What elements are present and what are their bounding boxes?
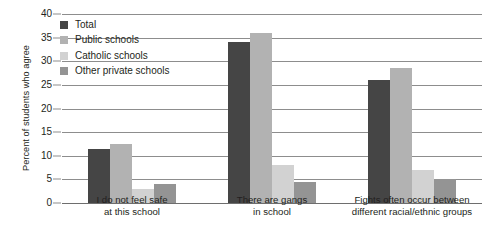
legend-swatch-icon — [60, 36, 68, 44]
y-tick-label-25: 25 — [41, 80, 52, 90]
x-axis-label-line: different racial/ethnic groups — [312, 206, 497, 218]
y-tick-label-20: 20 — [41, 104, 52, 114]
y-tick-label-35: 35 — [41, 33, 52, 43]
x-axis-group-label: Fights often occur betweendifferent raci… — [312, 194, 497, 217]
y-tick-mark-25 — [53, 84, 61, 85]
legend-item-label: Total — [75, 20, 96, 30]
y-tick-label-15: 15 — [41, 127, 52, 137]
bar-chart: Percent of students who agree 0510152025… — [0, 0, 497, 246]
legend-item: Catholic schools — [60, 48, 170, 64]
bar — [250, 33, 272, 203]
legend-swatch-icon — [60, 52, 68, 60]
y-tick-label-40: 40 — [41, 9, 52, 19]
bar — [368, 80, 390, 203]
legend-swatch-icon — [60, 67, 68, 75]
bar — [390, 68, 412, 203]
legend-item: Total — [60, 17, 170, 33]
gridline-20: 20 — [62, 109, 482, 110]
gridline-25: 25 — [62, 85, 482, 86]
legend-swatch-icon — [60, 21, 68, 29]
bar — [228, 42, 250, 203]
chart-legend: TotalPublic schoolsCatholic schoolsOther… — [60, 17, 170, 79]
y-tick-mark-15 — [53, 132, 61, 133]
legend-item-label: Public schools — [75, 35, 139, 45]
y-tick-label-10: 10 — [41, 151, 52, 161]
legend-item-label: Other private schools — [75, 66, 170, 76]
y-tick-mark-20 — [53, 108, 61, 109]
y-tick-mark-5 — [53, 179, 61, 180]
legend-item: Public schools — [60, 33, 170, 49]
y-tick-label-5: 5 — [46, 174, 52, 184]
gridline-40: 40 — [62, 14, 482, 15]
legend-item: Other private schools — [60, 64, 170, 80]
x-axis-label-line: Fights often occur between — [312, 194, 497, 206]
y-tick-label-30: 30 — [41, 56, 52, 66]
y-axis-title: Percent of students who agree — [21, 23, 31, 193]
y-tick-mark-10 — [53, 155, 61, 156]
legend-item-label: Catholic schools — [75, 51, 148, 61]
y-tick-mark-40 — [53, 14, 61, 15]
gridline-15: 15 — [62, 132, 482, 133]
